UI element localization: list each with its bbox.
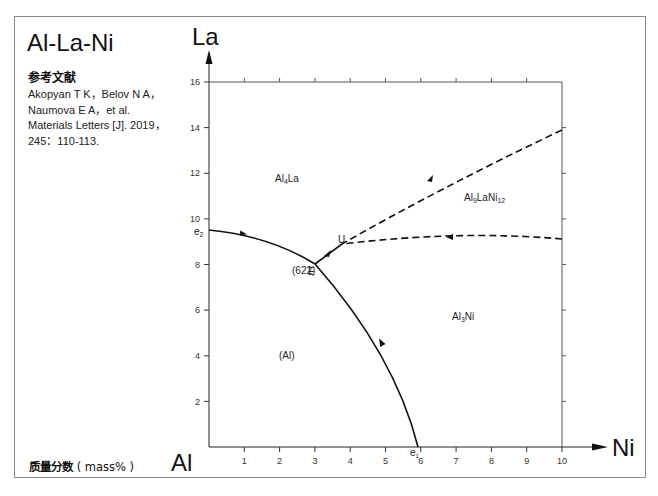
point-E-label: E [308, 266, 315, 277]
phase-al9lani12: Al9LaNi12 [464, 192, 505, 204]
origin-label: Al [171, 449, 192, 476]
curve-upper-U [342, 130, 562, 244]
phase-diagram: La Ni Al 2 4 6 8 10 12 14 16 [0, 0, 658, 496]
direction-arrow-icon [376, 337, 385, 347]
x-tick-label: 9 [524, 456, 529, 466]
y-tick-label: 14 [190, 123, 200, 133]
x-axis-arrow-icon [592, 444, 608, 451]
y-ticks-right [562, 128, 566, 402]
point-e1-label: e1 [410, 447, 420, 459]
y-tick-label: 2 [195, 397, 200, 407]
x-tick-label: 1 [242, 456, 247, 466]
y-tick-label: 10 [190, 214, 200, 224]
y-axis-label: La [192, 23, 219, 50]
point-e2-label: e2 [194, 226, 204, 238]
x-tick-label: 3 [312, 456, 317, 466]
point-U-label: U [338, 234, 345, 245]
y-tick-label: 16 [190, 77, 200, 87]
y-ticks-left [204, 82, 209, 401]
y-tick-label: 6 [195, 305, 200, 315]
x-tick-label: 2 [277, 456, 282, 466]
x-tick-label: 6 [418, 456, 423, 466]
phase-al3ni: Al3Ni [452, 311, 474, 323]
x-ticks-top [244, 78, 526, 82]
direction-arrow-icon [427, 175, 433, 182]
x-tick-label: 8 [489, 456, 494, 466]
phase-al-solid: (Al) [279, 350, 295, 361]
curve-e2-E [209, 230, 315, 264]
curve-e1-E [315, 264, 418, 447]
x-tick-label: 4 [348, 456, 353, 466]
phase-al4la: Al4La [275, 173, 299, 185]
x-axis-label: Ni [612, 434, 635, 461]
x-tick-label: 5 [383, 456, 388, 466]
direction-arrow-icon [446, 234, 453, 240]
y-tick-label: 8 [195, 260, 200, 270]
x-ticks-bottom [244, 447, 562, 452]
x-tick-label: 10 [557, 456, 567, 466]
y-axis-arrow-icon [206, 50, 213, 64]
x-tick-label: 7 [454, 456, 459, 466]
direction-arrow-icon [324, 250, 331, 257]
y-tick-label: 12 [190, 168, 200, 178]
y-tick-label: 4 [195, 351, 200, 361]
